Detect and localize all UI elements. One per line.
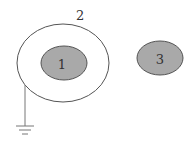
conductor-1-label: 1 (58, 57, 66, 72)
conductor-2-label: 2 (76, 8, 84, 23)
ground-connection (16, 85, 34, 134)
ground-icon (16, 126, 34, 134)
conductor-3-label: 3 (156, 52, 164, 67)
diagram-canvas: 2 1 3 (0, 0, 193, 147)
